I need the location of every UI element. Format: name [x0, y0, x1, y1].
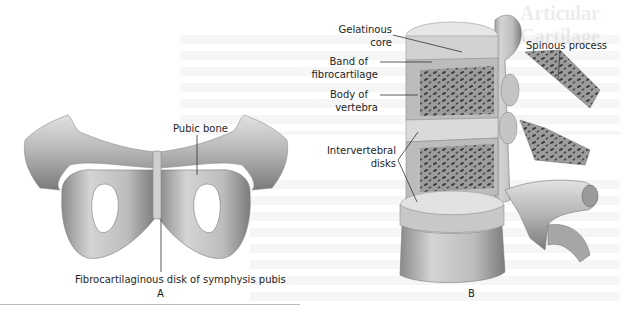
pelvis-diagram — [24, 115, 287, 272]
label-spinous-process: Spinous process — [526, 39, 607, 52]
label-band-of-fibrocartilage: Band of fibrocartilage — [300, 55, 378, 81]
symphysis-disk — [153, 151, 161, 219]
label-intervertebral-disks: Intervertebral disks — [320, 144, 396, 170]
panel-a-letter: A — [157, 288, 164, 299]
label-disks-line2: disks — [320, 157, 396, 170]
label-body-of-vertebra: Body of vertebra — [300, 88, 378, 114]
label-gelatinous-core-line2: core — [330, 36, 392, 49]
label-band-line1: Band of — [300, 55, 378, 68]
label-body-line2: vertebra — [300, 101, 378, 114]
label-gelatinous-core-line1: Gelatinous — [330, 23, 392, 36]
label-disks-line1: Intervertebral — [320, 144, 396, 157]
label-band-line2: fibrocartilage — [300, 68, 378, 81]
label-gelatinous-core: Gelatinous core — [330, 23, 392, 49]
panel-b-letter: B — [468, 288, 475, 299]
label-pubic-bone: Pubic bone — [173, 122, 228, 135]
label-symphysis-disk: Fibrocartilaginous disk of symphysis pub… — [75, 273, 286, 286]
page-rule — [0, 304, 300, 305]
label-body-line1: Body of — [300, 88, 378, 101]
vertebra-diagram — [380, 15, 600, 282]
